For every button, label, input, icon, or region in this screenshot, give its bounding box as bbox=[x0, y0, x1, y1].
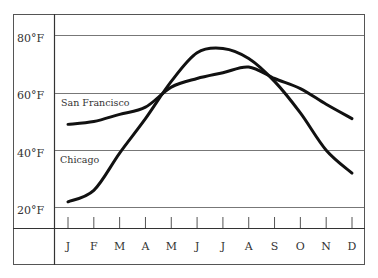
y-tick-60: 60°F bbox=[17, 89, 44, 102]
series-line-chicago bbox=[68, 48, 352, 202]
y-tick-20: 20°F bbox=[17, 204, 44, 217]
y-tick-40: 40°F bbox=[17, 147, 44, 160]
x-tick-label: O bbox=[296, 240, 305, 253]
x-tick-label: M bbox=[166, 240, 177, 253]
x-tick-label: A bbox=[244, 240, 254, 253]
chart-frame bbox=[14, 15, 365, 265]
x-tick-label: J bbox=[65, 240, 70, 253]
series-label-san-francisco: San Francisco bbox=[61, 97, 130, 108]
x-tick-labels: JFMAMJJASOND bbox=[65, 240, 357, 253]
x-tick-label: S bbox=[271, 240, 279, 253]
x-tick-label: J bbox=[220, 240, 225, 253]
x-ticks bbox=[68, 217, 352, 228]
series-line-san-francisco bbox=[68, 67, 352, 124]
x-tick-label: F bbox=[90, 240, 98, 253]
x-tick-label: A bbox=[140, 240, 150, 253]
x-tick-label: D bbox=[348, 240, 357, 253]
series-label-chicago: Chicago bbox=[60, 154, 99, 165]
x-tick-label: N bbox=[321, 240, 331, 253]
temperature-line-chart: 80°F 60°F 40°F 20°F JFMAMJJASOND San Fra… bbox=[0, 0, 378, 278]
x-tick-label: M bbox=[114, 240, 125, 253]
x-tick-label: J bbox=[194, 240, 199, 253]
y-tick-80: 80°F bbox=[17, 32, 44, 45]
